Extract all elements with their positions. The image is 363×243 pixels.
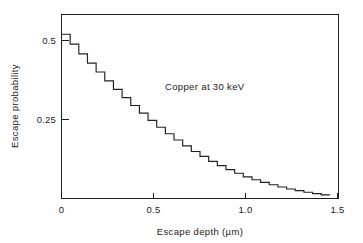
y-tick-label-0.5: 0.5 [42, 35, 56, 46]
chart-canvas: 0.5 0.25 0 0.5 1.0 1.5 Escape depth (µm)… [0, 0, 363, 243]
x-tick-label-1.0: 1.0 [239, 204, 253, 215]
y-axis-title: Escape probability [9, 64, 20, 148]
y-axis-ticks [62, 41, 69, 120]
plot-frame [62, 15, 339, 199]
x-tick-label-0.5: 0.5 [147, 204, 161, 215]
escape-probability-figure: 0.5 0.25 0 0.5 1.0 1.5 Escape depth (µm)… [0, 0, 363, 243]
y-tick-label-0.25: 0.25 [37, 114, 56, 125]
x-axis-title: Escape depth (µm) [157, 226, 243, 237]
series-annotation-label: Copper at 30 keV [165, 81, 245, 92]
x-tick-label-1.5: 1.5 [331, 204, 345, 215]
escape-probability-step-curve [62, 34, 330, 195]
x-axis-ticks [62, 193, 338, 199]
x-tick-label-0: 0 [59, 204, 64, 215]
